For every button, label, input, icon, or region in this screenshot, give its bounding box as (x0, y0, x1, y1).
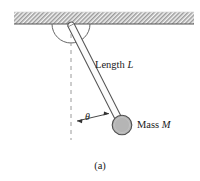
pendulum-rod (68, 22, 125, 127)
pendulum-figure: Length L Mass M θ (a) (0, 0, 200, 181)
mass-symbol: M (162, 119, 171, 130)
pendulum-diagram (0, 0, 200, 181)
length-label-text: Length (95, 59, 125, 70)
pendulum-mass-ball (112, 115, 132, 135)
angle-label: θ (85, 112, 90, 122)
length-symbol: L (127, 59, 133, 70)
length-label: Length L (95, 60, 133, 71)
angle-double-arrow (77, 111, 109, 123)
mass-label: Mass M (137, 120, 171, 131)
figure-caption: (a) (0, 161, 200, 172)
hatched-ceiling (14, 12, 194, 24)
mass-label-text: Mass (137, 119, 159, 130)
